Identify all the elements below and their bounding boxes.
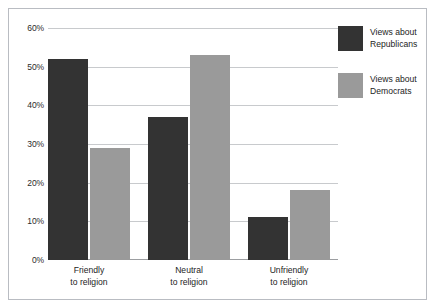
legend-label-democrats-line2: Democrats [370,86,417,98]
bar-unfriendly-republicans [248,217,288,260]
x-tick-label-neutral-line2: to religion [134,277,244,289]
legend-label-republicans-line2: Republicans [370,39,417,51]
y-tick-label-40: 40% [4,101,44,110]
y-tick-label-30: 30% [4,140,44,149]
bar-friendly-democrats [90,148,130,260]
y-tick-label-20: 20% [4,178,44,187]
bar-neutral-republicans [148,117,188,260]
legend-label-democrats-line1: Views about [370,74,417,84]
x-tick-label-neutral-line1: Neutral [175,265,203,275]
bar-friendly-republicans [48,59,88,260]
y-tick-label-10: 10% [4,217,44,226]
bar-neutral-democrats [190,55,230,260]
x-tick-label-unfriendly: Unfriendly to religion [234,265,344,288]
legend: Views about Republicans Views about Demo… [338,26,424,120]
legend-label-republicans-line1: Views about [370,27,417,37]
x-tick-label-neutral: Neutral to religion [134,265,244,288]
y-tick-label-60: 60% [4,24,44,33]
x-tick-label-unfriendly-line1: Unfriendly [270,265,309,275]
x-axis: Friendly to religion Neutral to religion… [48,265,338,299]
y-tick-label-0: 0% [4,256,44,265]
bars-layer [48,28,338,260]
y-tick-label-50: 50% [4,62,44,71]
legend-swatch-democrats-icon [338,73,363,98]
x-tick-label-friendly-line2: to religion [34,277,144,289]
legend-label-democrats: Views about Democrats [370,73,417,97]
y-axis: 60% 50% 40% 30% 20% 10% 0% [0,28,44,260]
bar-chart-figure: 60% 50% 40% 30% 20% 10% 0% Friendly to r… [0,0,437,307]
legend-label-republicans: Views about Republicans [370,26,417,50]
legend-entry-republicans: Views about Republicans [338,26,424,51]
legend-entry-democrats: Views about Democrats [338,73,424,98]
x-tick-label-friendly-line1: Friendly [74,265,105,275]
bar-unfriendly-democrats [290,190,330,260]
x-tick-label-unfriendly-line2: to religion [234,277,344,289]
x-tick-label-friendly: Friendly to religion [34,265,144,288]
legend-swatch-republicans-icon [338,26,363,51]
